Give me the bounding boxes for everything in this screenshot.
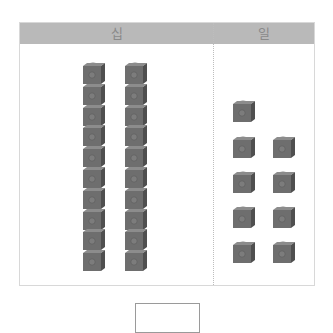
tens-rod-cube-icon: [124, 228, 146, 248]
place-value-table: 십 일: [19, 22, 315, 286]
tens-rod-cube-icon: [124, 166, 146, 186]
column-divider: [213, 23, 214, 285]
unit-cube-icon: [232, 100, 254, 120]
tens-rod-cube-icon: [82, 104, 104, 124]
tens-rod-cube-icon: [124, 83, 146, 103]
unit-cube-icon: [232, 206, 254, 226]
unit-cube-icon: [232, 171, 254, 191]
ones-header: 일: [214, 23, 314, 44]
tens-rod-cube-icon: [124, 187, 146, 207]
tens-rod-cube-icon: [82, 166, 104, 186]
unit-cube-icon: [232, 241, 254, 261]
tens-rod-cube-icon: [124, 104, 146, 124]
tens-rod-cube-icon: [82, 208, 104, 228]
tens-rod-cube-icon: [124, 62, 146, 82]
tens-rod-cube-icon: [124, 124, 146, 144]
tens-rod-cube-icon: [82, 124, 104, 144]
unit-cube-icon: [232, 136, 254, 156]
answer-input-box[interactable]: [135, 303, 200, 333]
tens-rod-cube-icon: [82, 83, 104, 103]
tens-rod-cube-icon: [124, 145, 146, 165]
tens-rod-cube-icon: [82, 145, 104, 165]
tens-header: 십: [20, 23, 214, 44]
unit-cube-icon: [272, 241, 294, 261]
tens-rod-cube-icon: [82, 187, 104, 207]
tens-rod-cube-icon: [124, 208, 146, 228]
unit-cube-icon: [272, 206, 294, 226]
tens-rod-cube-icon: [82, 62, 104, 82]
unit-cube-icon: [272, 171, 294, 191]
tens-rod-cube-icon: [124, 249, 146, 269]
tens-rod-cube-icon: [82, 228, 104, 248]
unit-cube-icon: [272, 136, 294, 156]
tens-rod-cube-icon: [82, 249, 104, 269]
